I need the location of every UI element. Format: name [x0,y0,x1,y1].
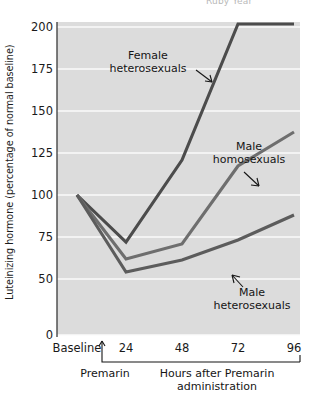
y-tick-100: 100 [31,188,53,202]
x-tick-labels: Baseline 24 48 72 96 [53,341,302,355]
y-axis-title: Luteinizing hormone (percentage of norma… [4,44,15,300]
x-tick-72: 72 [231,341,246,355]
annotation-male-heterosexuals-line1: Male [239,286,265,299]
x-axis-caption-line1: Hours after Premarin [160,367,275,380]
axis-brackets [102,355,300,362]
y-tick-200: 200 [31,20,53,34]
y-tick-50: 50 [38,272,53,286]
y-tick-labels: 200 175 150 125 100 75 50 0 [31,20,53,342]
y-tick-0: 0 [46,328,53,342]
annotation-male-heterosexuals-line2: heterosexuals [213,299,290,312]
x-tick-48: 48 [175,341,190,355]
x-axis-caption-line2: administration [177,380,257,393]
y-tick-75: 75 [38,230,53,244]
x-tick-baseline: Baseline [53,341,102,355]
y-tick-125: 125 [31,146,53,160]
annotation-male-homosexuals-line2: homosexuals [213,153,286,166]
premarin-caption: Premarin [80,367,130,380]
x-tick-96: 96 [287,341,302,355]
luteinizing-hormone-line-chart: 200 175 150 125 100 75 50 0 Luteinizing … [0,0,312,398]
x-tick-24: 24 [119,341,134,355]
y-tick-150: 150 [31,104,53,118]
annotation-male-homosexuals-line1: Male [236,140,262,153]
annotation-female-heterosexuals-line1: Female [128,49,168,62]
annotation-female-heterosexuals-line2: heterosexuals [109,62,186,75]
y-tick-175: 175 [31,62,53,76]
